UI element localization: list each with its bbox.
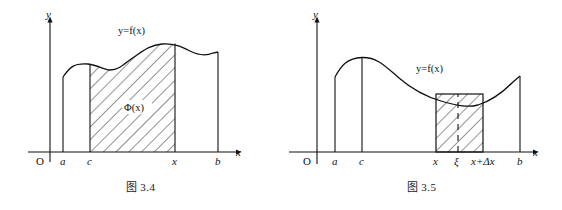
tick-label-a: a (60, 155, 66, 167)
curve-label: y=f(x) (416, 63, 443, 75)
y-axis-label: y (312, 8, 318, 20)
figure-3-5-caption: 图 3.5 (281, 178, 562, 194)
tick-label-b: b (517, 155, 523, 167)
figure-3-5: O x y a c x ξ x+Δx b y=f(x) 图 3.5 (281, 0, 562, 210)
region-label-phi: Φ(x) (124, 102, 144, 114)
tick-label-x-plus-delta-x: x+Δx (470, 155, 495, 167)
tick-label-xi: ξ (454, 155, 459, 168)
figure-3-4-caption: 图 3.4 (0, 178, 281, 194)
shaded-area-phi (63, 44, 218, 152)
y-axis-label: y (45, 8, 51, 20)
figure-3-5-canvas: O x y a c x ξ x+Δx b y=f(x) (281, 0, 562, 180)
tick-label-b: b (215, 155, 221, 167)
tick-label-a: a (332, 155, 338, 167)
figure-pair: O x y a c x b y=f(x) Φ(x) 图 3.4 (0, 0, 562, 210)
figure-3-4-canvas: O x y a c x b y=f(x) Φ(x) (0, 0, 281, 180)
tick-label-x: x (432, 155, 438, 167)
figure-3-4: O x y a c x b y=f(x) Φ(x) 图 3.4 (0, 0, 281, 210)
tick-label-x: x (171, 155, 177, 167)
curve-label: y=f(x) (118, 25, 145, 37)
x-axis-label: x (235, 146, 241, 158)
tick-label-c: c (359, 155, 364, 167)
origin-label: O (303, 155, 311, 167)
x-axis-label: x (532, 146, 538, 158)
shaded-rectangle (436, 94, 483, 152)
tick-label-c: c (87, 155, 92, 167)
origin-label: O (36, 155, 44, 167)
